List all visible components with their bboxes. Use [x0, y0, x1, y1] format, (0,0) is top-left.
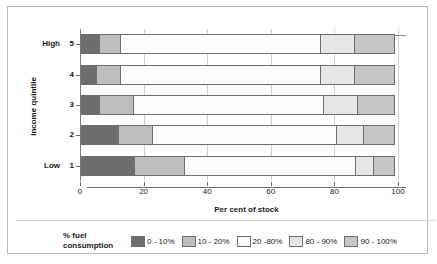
legend-item[interactable]: 90 - 100%: [344, 236, 396, 247]
legend-item[interactable]: 0 - 10%: [131, 236, 175, 247]
x-tick-mark: [334, 182, 335, 186]
y-tick-label-2: 2: [62, 130, 74, 139]
bar-segment: [152, 125, 336, 145]
bar-segment: [81, 95, 100, 115]
bar-row: [81, 95, 399, 115]
legend-swatch: [182, 236, 196, 247]
bar-row: [81, 34, 399, 54]
bar-segment: [81, 34, 100, 54]
chart-frame: 020406080100 1Low2345High Per cent of st…: [7, 6, 428, 254]
bar-segment: [355, 156, 374, 176]
bar-segment: [363, 125, 395, 145]
legend-separator: [16, 220, 435, 221]
x-tick-mark: [144, 182, 145, 186]
bar-segment: [96, 65, 121, 85]
bar-segment: [99, 34, 121, 54]
legend-item[interactable]: 20 -80%: [237, 236, 283, 247]
x-tick-mark: [80, 182, 81, 186]
legend-title: % fuel consumption: [63, 231, 131, 251]
bar-segment: [81, 65, 97, 85]
legend-title-line1: % fuel: [63, 231, 131, 241]
legend-item[interactable]: 10 - 20%: [182, 236, 230, 247]
y-axis-high-label: High: [30, 39, 60, 48]
bar-row: [81, 156, 399, 176]
chart-legend: % fuel consumption 0 - 10%10 - 20%20 -80…: [63, 226, 433, 256]
bar-segment: [336, 125, 365, 145]
y-tick-mark: [76, 105, 80, 106]
legend-swatch: [237, 236, 251, 247]
y-tick-mark: [76, 166, 80, 167]
x-tick-label: 40: [192, 187, 222, 196]
bar-segment: [120, 34, 320, 54]
legend-title-line2: consumption: [63, 241, 131, 251]
bar-segment: [99, 95, 134, 115]
bar-segment: [373, 156, 395, 176]
bar-segment: [320, 34, 355, 54]
y-tick-mark: [76, 44, 80, 45]
bar-segment: [120, 65, 320, 85]
chart-figure: 020406080100 1Low2345High Per cent of st…: [0, 0, 437, 264]
bar-segment: [357, 95, 395, 115]
bar-segment: [323, 95, 358, 115]
x-tick-mark: [271, 182, 272, 186]
bar-segment: [81, 125, 119, 145]
x-tick-mark: [207, 182, 208, 186]
bar-segment: [354, 65, 395, 85]
y-tick-label-5: 5: [62, 39, 74, 48]
legend-label: 90 - 100%: [360, 237, 396, 246]
bar-segment: [134, 156, 185, 176]
y-tick-mark: [76, 75, 80, 76]
bar-segment: [133, 95, 324, 115]
bar-segment: [81, 156, 135, 176]
x-tick-label: 20: [129, 187, 159, 196]
legend-swatch: [131, 236, 145, 247]
x-axis-title: Per cent of stock: [87, 205, 406, 214]
bar-segment: [184, 156, 356, 176]
y-tick-mark: [76, 135, 80, 136]
bar-segment: [354, 34, 395, 54]
y-tick-label-1: 1: [62, 161, 74, 170]
legend-label: 80 - 90%: [305, 237, 337, 246]
legend-label: 0 - 10%: [147, 237, 175, 246]
legend-label: 10 - 20%: [198, 237, 230, 246]
x-tick-label: 60: [256, 187, 286, 196]
x-tick-label: 100: [383, 187, 413, 196]
y-tick-label-4: 4: [62, 70, 74, 79]
legend-swatch: [344, 236, 358, 247]
bar-row: [81, 65, 399, 85]
y-tick-label-3: 3: [62, 100, 74, 109]
bar-row: [81, 125, 399, 145]
y-axis-low-label: Low: [30, 161, 60, 170]
x-tick-mark: [398, 182, 399, 186]
legend-item[interactable]: 80 - 90%: [289, 236, 337, 247]
x-tick-label: 80: [319, 187, 349, 196]
legend-items: 0 - 10%10 - 20%20 -80%80 - 90%90 - 100%: [131, 236, 404, 247]
legend-swatch: [289, 236, 303, 247]
x-tick-label: 0: [65, 187, 95, 196]
legend-label: 20 -80%: [253, 237, 283, 246]
bar-segment: [320, 65, 355, 85]
bar-segment: [118, 125, 153, 145]
y-axis-title: Income quintile: [29, 62, 38, 152]
